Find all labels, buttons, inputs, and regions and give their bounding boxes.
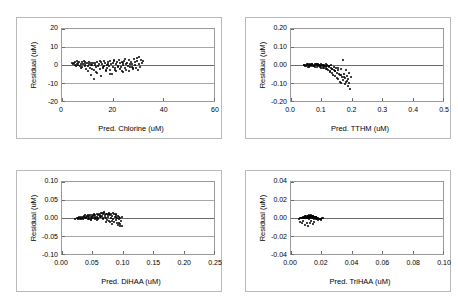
gridline-y xyxy=(62,236,214,237)
chart-panel-dihaa: Residual (uM) -0.10-0.050.000.050.10 0.0… xyxy=(16,170,222,292)
data-point xyxy=(99,60,101,62)
x-tick-mark xyxy=(413,98,414,101)
x-tick-mark xyxy=(382,251,383,254)
data-point xyxy=(80,67,82,69)
x-axis-title-chlorine: Pred. Chlorine (uM) xyxy=(47,124,215,133)
data-point xyxy=(134,64,136,66)
data-point xyxy=(303,64,305,66)
gridline-y xyxy=(62,83,214,84)
y-axis-title-wrap-trihaa: Residual (uM) xyxy=(248,181,262,255)
data-point xyxy=(310,220,312,222)
data-point xyxy=(340,74,342,76)
data-point xyxy=(99,216,101,218)
x-axis-labels-tthm: 0.00.10.20.30.40.5 xyxy=(290,102,444,116)
x-tick-label: 0.1 xyxy=(316,106,326,114)
x-axis-title-trihaa: Pred. TriHAA (uM) xyxy=(276,277,444,286)
data-point xyxy=(344,83,346,85)
data-point xyxy=(111,73,113,75)
data-point xyxy=(128,70,130,72)
data-point xyxy=(105,69,107,71)
data-point xyxy=(349,88,351,90)
data-point xyxy=(119,225,121,227)
gridline-y xyxy=(291,236,443,237)
x-tick-label: 0.20 xyxy=(177,259,191,267)
x-tick-mark xyxy=(382,98,383,101)
data-point xyxy=(314,66,316,68)
plot-area-dihaa xyxy=(61,181,215,255)
gridline-y xyxy=(62,29,214,30)
data-point xyxy=(118,59,120,61)
x-tick-label: 0.10 xyxy=(116,259,130,267)
y-tick-label: 20 xyxy=(50,24,58,32)
data-point xyxy=(323,65,325,67)
gridline-y xyxy=(291,83,443,84)
data-point xyxy=(103,211,105,213)
gridline-y xyxy=(62,182,214,183)
x-tick-label: 0.4 xyxy=(408,106,418,114)
y-tick-mark xyxy=(291,29,294,30)
data-point xyxy=(108,213,110,215)
x-tick-mark xyxy=(92,251,93,254)
gridline-y xyxy=(291,29,443,30)
y-tick-label: 0.04 xyxy=(273,177,287,185)
gridline-y xyxy=(62,47,214,48)
plot-area-chlorine xyxy=(61,28,215,102)
y-tick-mark xyxy=(291,218,294,219)
data-point xyxy=(346,75,348,77)
x-tick-label: 0.04 xyxy=(345,259,359,267)
x-tick-label: 0 xyxy=(59,106,63,114)
x-tick-label: 0.05 xyxy=(85,259,99,267)
data-point xyxy=(84,61,86,63)
scatter-chart-trihaa: Residual (uM) -0.04-0.020.000.020.04 0.0… xyxy=(246,171,450,291)
x-axis-labels-chlorine: 0204060 xyxy=(61,102,215,116)
y-tick-mark xyxy=(62,200,65,201)
data-point xyxy=(331,68,333,70)
data-point xyxy=(313,221,315,223)
y-tick-mark xyxy=(291,236,294,237)
y-tick-mark xyxy=(291,182,294,183)
data-point xyxy=(136,60,138,62)
data-point xyxy=(109,60,111,62)
y-tick-mark xyxy=(62,65,65,66)
data-point xyxy=(343,73,345,75)
data-point xyxy=(138,56,140,58)
y-tick-label: -0.10 xyxy=(271,80,287,88)
data-point xyxy=(306,222,308,224)
x-tick-label: 0.25 xyxy=(208,259,222,267)
y-tick-label: 0.10 xyxy=(44,177,58,185)
x-tick-mark xyxy=(352,98,353,101)
y-axis-labels-trihaa: -0.04-0.020.000.020.04 xyxy=(264,181,287,255)
data-point xyxy=(328,65,330,67)
data-point xyxy=(307,225,309,227)
y-tick-label: 0.00 xyxy=(273,61,287,69)
x-tick-mark xyxy=(214,98,215,101)
data-point xyxy=(96,219,98,221)
y-axis-labels-chlorine: -20-1001020 xyxy=(35,28,58,102)
x-tick-mark xyxy=(443,98,444,101)
y-tick-label: -0.02 xyxy=(271,233,287,241)
data-point xyxy=(334,70,336,72)
data-point xyxy=(326,68,328,70)
data-point xyxy=(142,60,144,62)
data-point xyxy=(322,217,324,219)
data-point xyxy=(329,70,331,72)
data-point xyxy=(301,222,303,224)
data-point xyxy=(99,68,101,70)
y-tick-label: 0.02 xyxy=(273,196,287,204)
data-point xyxy=(112,212,114,214)
y-tick-label: 10 xyxy=(50,43,58,51)
data-point xyxy=(113,221,115,223)
x-tick-label: 60 xyxy=(211,106,219,114)
data-point xyxy=(90,219,92,221)
data-point xyxy=(320,67,322,69)
data-point xyxy=(115,216,117,218)
y-tick-mark xyxy=(291,200,294,201)
y-tick-label: 0 xyxy=(54,61,58,69)
x-tick-mark xyxy=(443,251,444,254)
data-point xyxy=(137,69,139,71)
x-tick-mark xyxy=(413,251,414,254)
data-point xyxy=(136,57,138,59)
x-tick-label: 0.3 xyxy=(378,106,388,114)
y-tick-mark xyxy=(62,236,65,237)
data-point xyxy=(120,66,122,68)
